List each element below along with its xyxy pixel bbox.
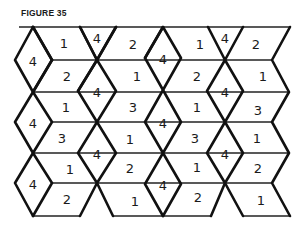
tiling-diagram: 4 4 4 4 4 4 4 4 4 4 4 4 1 2 1 3 1 2 2 1 …: [0, 0, 306, 233]
parallelogram-label: 1: [66, 162, 74, 177]
rhombus-label: 4: [29, 177, 37, 192]
rhombus-label: 4: [29, 54, 37, 69]
triangle-label: 4: [93, 31, 101, 46]
parallelogram-label: 1: [253, 131, 261, 146]
parallelogram-label: 1: [62, 100, 70, 115]
rhombus-label: 4: [159, 116, 167, 131]
parallelogram-label: 2: [252, 37, 260, 52]
rhombus-label: 4: [221, 147, 229, 162]
rhombus-label: 4: [159, 52, 167, 67]
rhombus-label: 4: [159, 178, 167, 193]
parallelogram-label: 3: [58, 131, 66, 146]
parallelogram-label: 1: [133, 69, 141, 84]
right-boundary: [272, 27, 290, 216]
rhombus-label: 4: [93, 85, 101, 100]
parallelogram-label: 1: [196, 37, 204, 52]
parallelogram-label: 2: [126, 161, 134, 176]
parallelogram-label: 2: [194, 190, 202, 205]
parallelogram-label: 1: [60, 36, 68, 51]
parallelogram-label: 3: [191, 131, 199, 146]
parallelogram-label: 1: [193, 100, 201, 115]
horizontal-lines: [19, 27, 291, 216]
parallelogram-label: 2: [129, 37, 137, 52]
parallelogram-label: 2: [193, 69, 201, 84]
triangle-label: 4: [221, 31, 229, 46]
parallelogram-label: 2: [63, 69, 71, 84]
rhombus-label: 4: [29, 116, 37, 131]
rhombus-label: 4: [93, 147, 101, 162]
parallelogram-label: 1: [257, 193, 265, 208]
parallelogram-label: 1: [131, 194, 139, 209]
parallelogram-label: 1: [193, 160, 201, 175]
parallelogram-label: 3: [254, 103, 262, 118]
parallelogram-label: 3: [129, 100, 137, 115]
parallelogram-label: 2: [63, 192, 71, 207]
parallelogram-label: 1: [259, 69, 267, 84]
parallelogram-label: 2: [254, 161, 262, 176]
rhombus-label: 4: [221, 85, 229, 100]
parallelogram-label: 1: [126, 132, 134, 147]
